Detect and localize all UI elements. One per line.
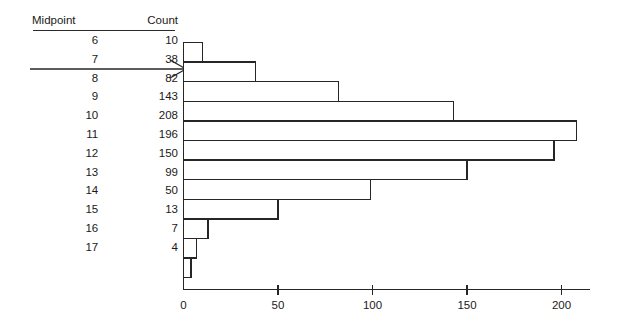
- histogram-bar-10: [184, 121, 577, 141]
- histogram-bar-17: [184, 258, 192, 278]
- histogram-bar-16: [184, 239, 197, 259]
- histogram-plot: 050100150200: [0, 0, 619, 316]
- histogram-bar-8: [184, 82, 339, 102]
- histogram-svg: 050100150200: [0, 0, 619, 316]
- x-tick-label-100: 100: [363, 299, 382, 311]
- x-tick-label-50: 50: [272, 299, 285, 311]
- x-tick-label-200: 200: [552, 299, 571, 311]
- histogram-bar-14: [184, 199, 279, 219]
- x-tick-label-0: 0: [180, 299, 186, 311]
- histogram-bar-6: [184, 43, 203, 63]
- histogram-bar-12: [184, 160, 468, 180]
- histogram-bar-13: [184, 180, 371, 200]
- histogram-bar-7: [184, 62, 256, 82]
- histogram-bar-9: [184, 101, 454, 121]
- histogram-figure: Midpoint Count 6107388829143102081119612…: [0, 0, 619, 316]
- histogram-bar-11: [184, 141, 554, 161]
- x-tick-label-150: 150: [457, 299, 476, 311]
- histogram-bar-15: [184, 219, 209, 239]
